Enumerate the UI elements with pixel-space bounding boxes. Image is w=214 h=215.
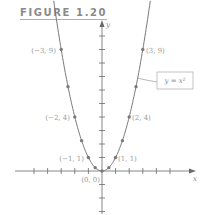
data-point	[134, 85, 137, 88]
data-point	[87, 156, 90, 159]
point-label-0-0: (0, 0)	[81, 176, 100, 184]
data-point	[100, 169, 103, 172]
data-point	[114, 156, 117, 159]
x-axis-arrow-icon	[189, 169, 196, 174]
callout-leader-line	[137, 78, 157, 82]
point-label-neg1-1: (−1, 1)	[59, 155, 84, 163]
data-point	[66, 85, 69, 88]
y-axis-arrow-icon	[100, 20, 105, 27]
point-label-1-1: (1, 1)	[118, 155, 137, 163]
data-point	[94, 166, 97, 169]
data-point	[80, 139, 83, 142]
point-label-neg3-9: (−3, 9)	[31, 47, 56, 55]
data-point	[128, 115, 131, 118]
data-point	[73, 115, 76, 118]
data-point	[121, 139, 124, 142]
data-point	[60, 48, 63, 51]
data-point	[107, 166, 110, 169]
parabola-chart: y = x² y x (−3, 9) (3, 9) (−2, 4) (2, 4)…	[0, 0, 214, 215]
x-axis-label: x	[193, 175, 197, 183]
data-point	[141, 48, 144, 51]
point-label-3-9: (3, 9)	[146, 47, 165, 55]
y-axis-label: y	[105, 21, 111, 29]
point-label-neg2-4: (−2, 4)	[45, 114, 70, 122]
point-label-2-4: (2, 4)	[132, 114, 151, 122]
equation-label: y = x²	[163, 77, 185, 85]
